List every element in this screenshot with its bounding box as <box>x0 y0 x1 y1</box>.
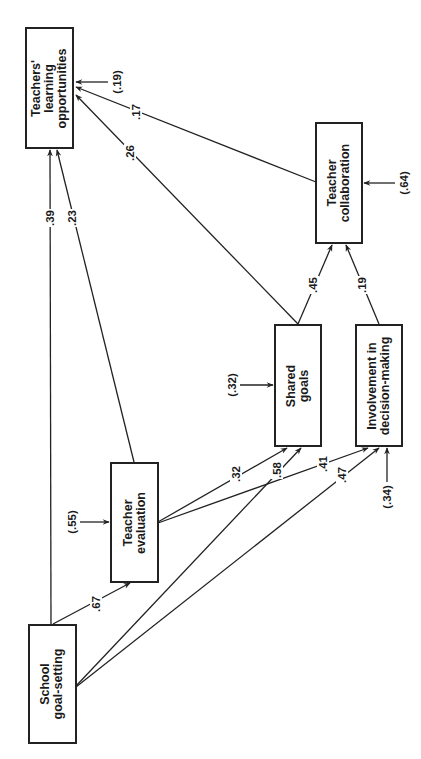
node-label-line: Teachers' <box>30 48 43 128</box>
node-label-line: goal-setting <box>53 649 66 720</box>
coef-goalsetting-sharedgoals: .58 <box>271 461 283 479</box>
coef-sharedgoals-collaboration: .45 <box>307 276 319 294</box>
node-shared-goals: Shared goals <box>274 324 322 447</box>
coef-evaluation-involvement: .41 <box>317 455 329 473</box>
residual-evaluation: (.55) <box>66 509 78 535</box>
node-teacher-collaboration: Teacher collaboration <box>315 122 363 244</box>
residual-collaboration: (.64) <box>398 170 410 196</box>
node-label-line: Shared <box>285 364 298 406</box>
node-teacher-evaluation: Teacher evaluation <box>110 462 159 583</box>
coef-goalsetting-learning: .39 <box>44 209 56 227</box>
node-teachers-learning-opportunities: Teachers' learning opportunities <box>25 27 74 149</box>
coef-goalsetting-evaluation: .67 <box>90 595 102 613</box>
node-school-goal-setting: School goal-setting <box>28 624 77 744</box>
node-label-line: opportunities <box>56 48 69 128</box>
node-label-line: Involvement in <box>366 336 379 435</box>
node-label-line: Teacher <box>326 144 339 222</box>
node-label-line: goals <box>298 364 311 406</box>
coef-goalsetting-involvement: .47 <box>336 466 348 484</box>
node-label-line: collaboration <box>339 144 352 222</box>
node-label-line: decision-making <box>379 336 392 435</box>
residual-learning: (.19) <box>111 69 123 95</box>
coef-collaboration-learning: .17 <box>130 103 142 121</box>
node-label-line: Teacher <box>122 492 135 554</box>
residual-involvement: (.34) <box>381 484 393 510</box>
coef-involvement-collaboration: .19 <box>356 276 368 294</box>
node-involvement-decision-making: Involvement in decision-making <box>355 324 403 447</box>
coef-evaluation-learning: .23 <box>66 209 78 227</box>
node-label-line: learning <box>43 48 56 128</box>
node-label-line: evaluation <box>135 492 148 554</box>
coef-sharedgoals-learning: .26 <box>124 144 136 162</box>
residual-shared-goals: (.32) <box>226 372 238 398</box>
coef-evaluation-sharedgoals: .32 <box>230 465 242 483</box>
